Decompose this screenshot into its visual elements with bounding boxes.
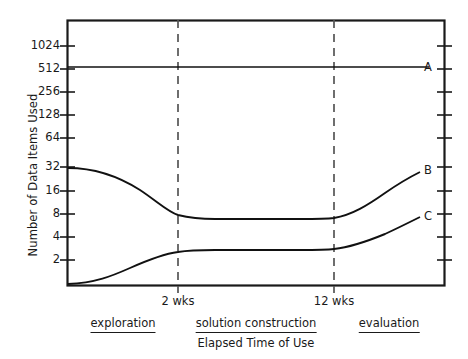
plot-frame xyxy=(68,21,445,286)
plot-area xyxy=(0,0,468,359)
chart-figure: Number of Data Items Used 1024 512 256 1… xyxy=(0,0,468,359)
series-label-a: A xyxy=(424,62,432,74)
series-line-c xyxy=(68,217,420,284)
divider-label-12wks: 12 wks xyxy=(314,296,354,308)
phase-label-evaluation: evaluation xyxy=(359,317,420,333)
phase-label-solution-construction: solution construction xyxy=(196,317,317,333)
divider-label-2wks: 2 wks xyxy=(161,296,194,308)
series-label-c: C xyxy=(424,211,432,223)
x-axis-title: Elapsed Time of Use xyxy=(198,338,315,350)
series-label-b: B xyxy=(424,165,432,177)
series-line-b xyxy=(68,168,420,219)
phase-label-exploration: exploration xyxy=(90,317,155,333)
